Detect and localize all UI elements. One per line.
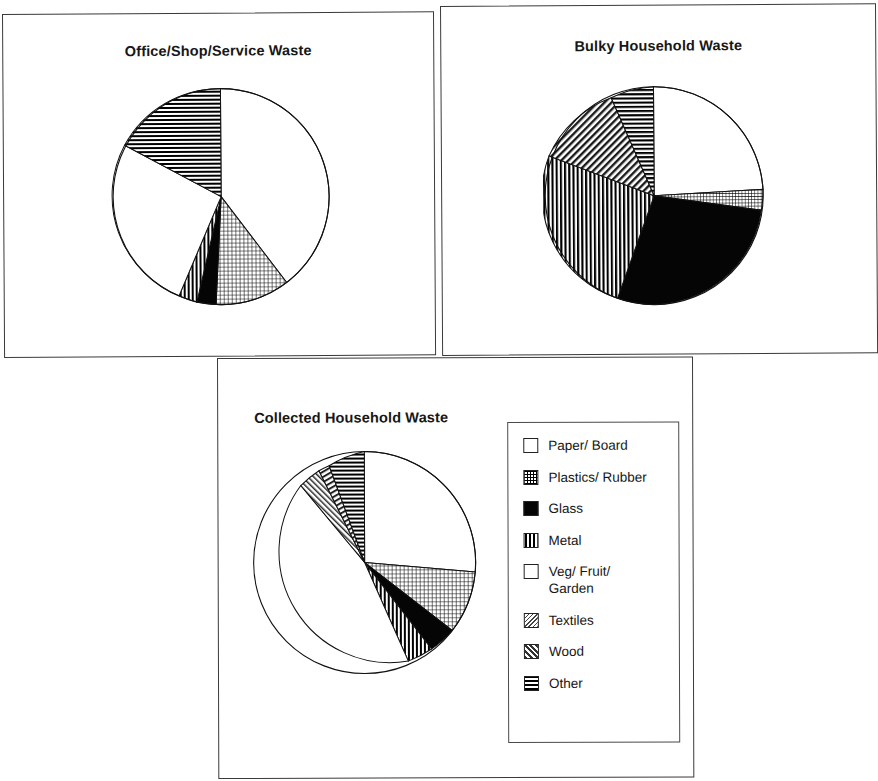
panel-bulky-household-waste: Bulky Household Waste — [440, 3, 878, 356]
legend-swatch-other-icon — [524, 675, 539, 690]
legend-swatch-glass-icon — [523, 501, 538, 516]
pie-slice-paper-board — [653, 86, 763, 196]
legend-label-paper-board: Paper/ Board — [548, 437, 628, 454]
chart-title-bulky: Bulky Household Waste — [441, 36, 875, 55]
legend-item-metal: Metal — [509, 531, 679, 549]
legend-item-veg-fruit-garden: Veg/ Fruit/ Garden — [509, 563, 679, 598]
panel-office-shop-service-waste: Office/Shop/Service Waste — [2, 11, 436, 358]
legend-item-textiles: Textiles — [509, 611, 679, 629]
legend-label-wood: Wood — [549, 643, 584, 660]
legend: Paper/ Board Plastics/ Rubber Glass Meta… — [507, 422, 680, 744]
pie-slice-paper-board — [364, 451, 475, 572]
legend-label-textiles: Textiles — [549, 611, 594, 628]
panel-collected-household-waste: Collected Household Waste — [217, 357, 694, 779]
legend-item-paper-board: Paper/ Board — [508, 437, 678, 455]
legend-swatch-plastics-rubber-icon — [523, 469, 538, 484]
legend-list: Paper/ Board Plastics/ Rubber Glass Meta… — [508, 437, 679, 692]
pie-svg-bulky — [542, 84, 765, 307]
legend-label-metal: Metal — [549, 531, 582, 548]
legend-label-plastics-rubber: Plastics/ Rubber — [548, 468, 646, 485]
pie-chart-office-shop-service-waste — [110, 86, 331, 307]
legend-item-other: Other — [509, 674, 679, 692]
legend-swatch-textiles-icon — [524, 612, 539, 627]
legend-swatch-metal-icon — [524, 532, 539, 547]
legend-label-veg-fruit-garden: Veg/ Fruit/ Garden — [549, 563, 611, 597]
legend-label-glass: Glass — [548, 500, 583, 517]
legend-item-wood: Wood — [509, 643, 679, 661]
pie-chart-bulky-household-waste — [542, 84, 765, 307]
legend-item-glass: Glass — [508, 500, 678, 518]
legend-label-other: Other — [549, 674, 583, 691]
pie-svg-office — [110, 86, 331, 307]
legend-swatch-wood-icon — [524, 644, 539, 659]
chart-title-office: Office/Shop/Service Waste — [3, 41, 433, 60]
legend-item-plastics-rubber: Plastics/ Rubber — [508, 468, 678, 486]
pie-svg-collected — [251, 449, 478, 676]
pie-chart-collected-household-waste — [251, 449, 478, 676]
legend-swatch-paper-board-icon — [523, 438, 538, 453]
legend-swatch-veg-fruit-garden-icon — [524, 564, 539, 579]
